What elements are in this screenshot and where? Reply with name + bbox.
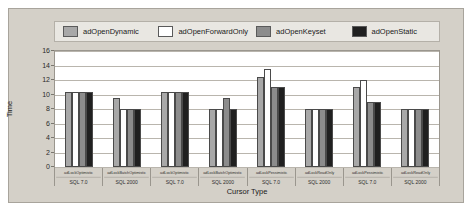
x-axis-group-label: adLockOptimisticSQL 7.0 <box>151 168 199 186</box>
bar-adopendynamic[interactable] <box>65 92 72 167</box>
bar-adopendynamic[interactable] <box>353 87 360 167</box>
legend-label: adOpenKeyset <box>276 27 326 36</box>
bar-adopenforwardonly[interactable] <box>72 92 79 167</box>
bar-adopenkeyset[interactable] <box>271 87 278 167</box>
x-axis-lock-type-label: adLockOptimistic <box>152 168 197 178</box>
bar-adopenstatic[interactable] <box>86 92 93 167</box>
x-axis-group-label: adLockBatchOptimisticSQL 2000 <box>199 168 247 186</box>
x-axis-lock-type-label: adLockReadOnly <box>393 168 438 178</box>
y-axis-title: Time <box>5 101 14 117</box>
legend-item-adopendynamic[interactable]: adOpenDynamic <box>55 26 150 37</box>
chart-legend: adOpenDynamicadOpenForwardOnlyadOpenKeys… <box>54 21 440 42</box>
legend-label: adOpenForwardOnly <box>178 27 248 36</box>
bar-adopenstatic[interactable] <box>230 109 237 167</box>
bar-adopendynamic[interactable] <box>257 77 264 167</box>
bar-group <box>343 51 391 167</box>
bar-adopenstatic[interactable] <box>134 109 141 167</box>
bar-group <box>199 51 247 167</box>
legend-swatch-icon <box>63 26 78 37</box>
x-axis-sql-version-label: SQL 7.0 <box>151 178 198 186</box>
bar-adopenforwardonly[interactable] <box>216 109 223 167</box>
x-axis-group-label: adLockBatchOptimisticSQL 2000 <box>103 168 151 186</box>
y-axis-tick-label: 14 <box>42 61 50 68</box>
legend-swatch-icon <box>352 26 367 37</box>
bar-adopenforwardonly[interactable] <box>264 69 271 167</box>
bar-adopenforwardonly[interactable] <box>120 109 127 167</box>
bar-adopenstatic[interactable] <box>278 87 285 167</box>
bar-adopenkeyset[interactable] <box>415 109 422 167</box>
bar-group <box>151 51 199 167</box>
bar-group <box>247 51 295 167</box>
bar-adopenstatic[interactable] <box>182 92 189 167</box>
bar-adopenkeyset[interactable] <box>223 98 230 167</box>
x-axis-lock-type-label: adLockPessimistic <box>345 168 390 178</box>
x-axis-sql-version-label: SQL 2000 <box>392 178 439 186</box>
x-axis-title: Cursor Type <box>54 187 440 196</box>
x-axis-group-label: adLockPessimisticSQL 7.0 <box>344 168 392 186</box>
legend-item-adopenforwardonly[interactable]: adOpenForwardOnly <box>150 26 248 37</box>
x-axis-lock-type-label: adLockOptimistic <box>56 168 101 178</box>
x-axis-sql-version-label: SQL 2000 <box>103 178 150 186</box>
bar-adopenforwardonly[interactable] <box>360 80 367 167</box>
bar-adopenforwardonly[interactable] <box>312 109 319 167</box>
plot-area <box>54 50 440 168</box>
bar-group <box>295 51 343 167</box>
x-axis-sql-version-label: SQL 2000 <box>296 178 343 186</box>
bar-adopenkeyset[interactable] <box>127 109 134 167</box>
x-axis-group-label: adLockPessimisticSQL 7.0 <box>248 168 296 186</box>
bar-adopenkeyset[interactable] <box>175 92 182 167</box>
x-axis-lock-type-label: adLockBatchOptimistic <box>201 168 246 178</box>
bar-adopenkeyset[interactable] <box>79 92 86 167</box>
legend-label: adOpenDynamic <box>83 27 139 36</box>
bar-adopendynamic[interactable] <box>161 92 168 167</box>
x-axis: adLockOptimisticSQL 7.0adLockBatchOptimi… <box>54 168 440 186</box>
x-axis-sql-version-label: SQL 2000 <box>199 178 246 186</box>
y-axis-tick-label: 0 <box>46 163 50 170</box>
x-axis-sql-version-label: SQL 7.0 <box>344 178 391 186</box>
x-axis-lock-type-label: adLockPessimistic <box>249 168 294 178</box>
y-axis-tick-label: 16 <box>42 47 50 54</box>
bar-adopenstatic[interactable] <box>326 109 333 167</box>
x-axis-lock-type-label: adLockBatchOptimistic <box>104 168 149 178</box>
bar-adopenstatic[interactable] <box>422 109 429 167</box>
y-axis-tick-label: 10 <box>42 90 50 97</box>
bar-adopenstatic[interactable] <box>374 102 381 167</box>
bar-adopendynamic[interactable] <box>305 109 312 167</box>
bar-adopendynamic[interactable] <box>209 109 216 167</box>
bar-adopendynamic[interactable] <box>113 98 120 167</box>
legend-item-adopenkeyset[interactable]: adOpenKeyset <box>248 26 343 37</box>
legend-item-adopenstatic[interactable]: adOpenStatic <box>344 26 439 37</box>
x-axis-group-label: adLockOptimisticSQL 7.0 <box>55 168 103 186</box>
y-axis-tick-label: 2 <box>46 148 50 155</box>
x-axis-group-label: adLockReadOnlySQL 2000 <box>296 168 344 186</box>
y-axis-tick-label: 8 <box>46 105 50 112</box>
x-axis-sql-version-label: SQL 7.0 <box>248 178 295 186</box>
legend-swatch-icon <box>158 26 173 37</box>
y-axis: Time 1614121086420 <box>9 50 54 168</box>
chart-frame: adOpenDynamicadOpenForwardOnlyadOpenKeys… <box>8 8 464 203</box>
bar-adopenkeyset[interactable] <box>367 102 374 167</box>
legend-label: adOpenStatic <box>372 27 417 36</box>
bar-group <box>103 51 151 167</box>
x-axis-group-label: adLockReadOnlySQL 2000 <box>392 168 440 186</box>
y-axis-tick-label: 4 <box>46 134 50 141</box>
y-axis-tick-label: 6 <box>46 119 50 126</box>
bar-groups <box>55 51 439 167</box>
y-axis-tick-label: 12 <box>42 76 50 83</box>
bar-adopenforwardonly[interactable] <box>408 109 415 167</box>
x-axis-lock-type-label: adLockReadOnly <box>297 168 342 178</box>
bar-group <box>391 51 439 167</box>
bar-adopendynamic[interactable] <box>401 109 408 167</box>
legend-swatch-icon <box>256 26 271 37</box>
bar-adopenkeyset[interactable] <box>319 109 326 167</box>
x-axis-sql-version-label: SQL 7.0 <box>55 178 102 186</box>
bar-group <box>55 51 103 167</box>
bar-adopenforwardonly[interactable] <box>168 92 175 167</box>
